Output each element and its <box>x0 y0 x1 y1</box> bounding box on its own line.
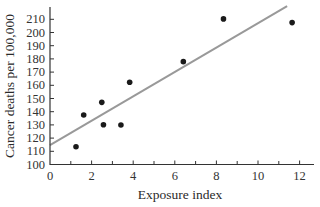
regression-line <box>50 6 287 145</box>
data-point <box>101 122 107 128</box>
data-point <box>118 122 124 128</box>
x-tick-label: 12 <box>293 169 306 183</box>
y-tick-label: 120 <box>26 131 45 145</box>
data-point <box>81 112 87 118</box>
y-tick-label: 110 <box>27 144 45 158</box>
x-tick-label: 8 <box>213 169 219 183</box>
data-point <box>221 16 227 22</box>
data-point <box>289 20 295 26</box>
plot-area <box>50 6 295 149</box>
y-tick-label: 200 <box>26 26 45 40</box>
y-tick-label: 150 <box>26 92 45 106</box>
data-point <box>127 79 133 85</box>
x-axis-title: Exposure index <box>138 187 223 202</box>
y-axis-title: Cancer deaths per 100,000 <box>2 14 17 158</box>
x-tick-label: 10 <box>252 169 265 183</box>
y-tick-label: 190 <box>26 39 45 53</box>
data-point <box>73 144 79 150</box>
x-tick-label: 2 <box>88 169 94 183</box>
y-tick-label: 130 <box>26 118 45 132</box>
y-tick-label: 180 <box>26 52 45 66</box>
y-tick-label: 140 <box>26 105 45 119</box>
y-tick-label: 100 <box>26 158 45 172</box>
x-tick-label: 0 <box>47 169 53 183</box>
x-tick-label: 6 <box>172 169 178 183</box>
scatter-chart: 100110120130140150160170180190200210 024… <box>0 0 320 207</box>
y-tick-label: 160 <box>26 78 45 92</box>
data-point <box>181 59 187 65</box>
y-tick-label: 170 <box>26 65 45 79</box>
data-point <box>99 100 105 106</box>
y-axis: 100110120130140150160170180190200210 <box>26 7 54 172</box>
x-axis: 024681012 <box>47 161 314 183</box>
y-tick-label: 210 <box>26 12 45 26</box>
x-tick-label: 4 <box>130 169 137 183</box>
